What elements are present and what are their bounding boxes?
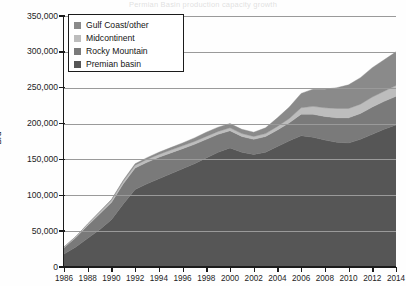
y-tick-label: 300,000 <box>27 47 58 55</box>
legend-label: Gulf Coast/other <box>86 21 149 30</box>
y-tick <box>59 51 65 52</box>
x-tick-label: 1998 <box>197 274 215 283</box>
x-tick <box>301 267 302 272</box>
x-tick-label: 2000 <box>221 274 239 283</box>
y-tick <box>59 195 65 196</box>
legend-item: Rocky Mountain <box>74 45 178 58</box>
legend-item: Gulf Coast/other <box>74 19 178 32</box>
gridline <box>64 231 396 232</box>
x-tick-label: 1988 <box>79 274 97 283</box>
y-tick <box>59 159 65 160</box>
y-axis-title: B/d <box>0 132 3 145</box>
legend-swatch-icon <box>74 61 81 68</box>
legend-label: Midcontinent <box>86 34 135 43</box>
x-tick <box>277 267 278 272</box>
x-tick-label: 1986 <box>55 274 73 283</box>
x-tick <box>183 267 184 272</box>
x-tick <box>325 267 326 272</box>
y-tick-label: 150,000 <box>27 155 58 163</box>
y-tick <box>59 266 65 267</box>
x-tick <box>206 267 207 272</box>
gridline <box>64 88 396 89</box>
x-tick-label: 1990 <box>102 274 120 283</box>
x-tick <box>372 267 373 272</box>
x-tick <box>88 267 89 272</box>
y-tick-label: 200,000 <box>27 119 58 127</box>
y-tick-label: 100,000 <box>27 191 58 199</box>
legend-item: Midcontinent <box>74 32 178 45</box>
y-axis-labels: 050,000100,000150,000200,000250,000300,0… <box>0 0 58 286</box>
x-tick-label: 2004 <box>268 274 286 283</box>
x-tick <box>135 267 136 272</box>
x-tick <box>396 267 397 272</box>
chart-screenshot: Permian Basin production capacity growth… <box>0 0 406 286</box>
x-tick-label: 2012 <box>363 274 381 283</box>
legend: Gulf Coast/otherMidcontinentRocky Mounta… <box>68 14 184 72</box>
y-tick-label: 350,000 <box>27 12 58 20</box>
legend-swatch-icon <box>74 22 81 29</box>
legend-swatch-icon <box>74 48 81 55</box>
y-tick <box>59 123 65 124</box>
x-tick <box>254 267 255 272</box>
y-tick-label: 250,000 <box>27 83 58 91</box>
x-tick-label: 2014 <box>387 274 405 283</box>
legend-item: Premian basin <box>74 58 178 71</box>
y-tick-label: 50,000 <box>32 227 58 235</box>
gridline <box>64 159 396 160</box>
y-tick <box>59 230 65 231</box>
y-tick <box>59 15 65 16</box>
x-tick-label: 1996 <box>173 274 191 283</box>
legend-label: Premian basin <box>86 60 141 69</box>
x-tick-label: 2002 <box>245 274 263 283</box>
x-tick <box>111 267 112 272</box>
gridline <box>64 124 396 125</box>
gridline <box>64 195 396 196</box>
x-tick <box>159 267 160 272</box>
x-tick-label: 2010 <box>339 274 357 283</box>
y-tick <box>59 87 65 88</box>
x-tick-label: 2008 <box>316 274 334 283</box>
legend-label: Rocky Mountain <box>86 47 148 56</box>
x-tick-label: 1994 <box>150 274 168 283</box>
faint-title: Permian Basin production capacity growth <box>0 0 406 9</box>
y-tick-label: 0 <box>53 263 58 271</box>
x-tick <box>64 267 65 272</box>
x-tick <box>349 267 350 272</box>
legend-swatch-icon <box>74 35 81 42</box>
x-tick-label: 2006 <box>292 274 310 283</box>
x-tick-label: 1992 <box>126 274 144 283</box>
x-tick <box>230 267 231 272</box>
